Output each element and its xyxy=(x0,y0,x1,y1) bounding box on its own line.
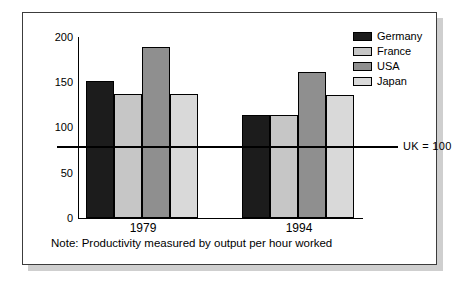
reference-line-uk-100 xyxy=(57,146,398,148)
chart-legend: Germany France USA Japan xyxy=(353,30,435,90)
bar-japan-1994 xyxy=(326,95,354,218)
legend-label-germany: Germany xyxy=(377,31,422,42)
bar-group-1979 xyxy=(86,36,200,218)
legend-item-france[interactable]: France xyxy=(353,45,435,57)
legend-label-japan: Japan xyxy=(377,76,407,87)
chart-figure-frame: 200 150 100 50 0 UK = 100 1979 1994 Germ… xyxy=(22,12,437,265)
legend-item-usa[interactable]: USA xyxy=(353,60,435,72)
bar-france-1979 xyxy=(114,94,142,218)
bar-germany-1994 xyxy=(242,115,270,218)
legend-swatch-usa-icon xyxy=(353,62,372,71)
plot-area: 200 150 100 50 0 UK = 100 1979 1994 Germ… xyxy=(23,13,436,264)
y-tick-label-0: 0 xyxy=(67,213,73,224)
legend-swatch-japan-icon xyxy=(353,77,372,86)
legend-swatch-france-icon xyxy=(353,47,372,56)
y-axis-line xyxy=(78,37,79,219)
x-axis-line xyxy=(78,218,363,219)
bar-usa-1979 xyxy=(142,47,170,218)
legend-item-germany[interactable]: Germany xyxy=(353,30,435,42)
legend-swatch-germany-icon xyxy=(353,32,372,41)
bar-japan-1979 xyxy=(170,94,198,218)
bar-germany-1979 xyxy=(86,81,114,218)
legend-label-france: France xyxy=(377,46,411,57)
y-tick-label-100: 100 xyxy=(55,122,73,133)
y-tick-label-200: 200 xyxy=(55,32,73,43)
legend-label-usa: USA xyxy=(377,61,400,72)
bar-france-1994 xyxy=(270,115,298,218)
bar-group-1994 xyxy=(242,36,356,218)
legend-item-japan[interactable]: Japan xyxy=(353,75,435,87)
x-axis-label-1979: 1979 xyxy=(86,221,200,235)
x-axis-label-1994: 1994 xyxy=(242,221,356,235)
y-tick-label-150: 150 xyxy=(55,77,73,88)
reference-line-label: UK = 100 xyxy=(403,140,452,152)
y-tick-label-50: 50 xyxy=(61,168,73,179)
chart-note: Note: Productivity measured by output pe… xyxy=(51,237,332,249)
